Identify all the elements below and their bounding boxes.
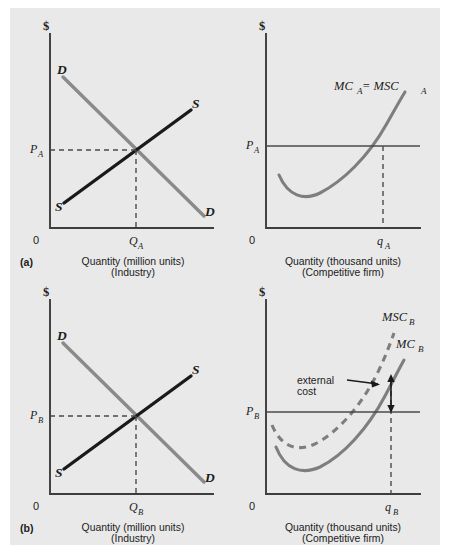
- origin-label-b-industry: 0: [33, 500, 39, 512]
- msc-sub-b: B: [409, 317, 415, 327]
- quantity-label-b-firm: q: [385, 500, 391, 514]
- mc-msc-label-a: MC A = MSC A: [333, 79, 427, 96]
- msc-sub-a: A: [420, 86, 427, 96]
- origin-label-b-firm: 0: [249, 500, 255, 512]
- price-label-a-industry: P: [29, 142, 38, 156]
- y-axis-label-a-firm: $: [259, 19, 265, 33]
- external-cost-label-line1: external: [297, 375, 334, 386]
- quantity-subscript-a-firm: A: [384, 241, 391, 251]
- panel-a-industry: $ D D S S P A 0 Q A (a) Quantity (millio…: [20, 19, 215, 278]
- origin-label-a-industry: 0: [33, 234, 39, 246]
- mc-label-b: MC B: [395, 337, 424, 354]
- panel-b-firm: $ MSC B MC B external cost: [245, 285, 424, 544]
- quantity-subscript-b-industry: B: [138, 507, 143, 517]
- mc-label-a: MC: [333, 79, 353, 93]
- panel-a-firm-axes: [266, 34, 420, 228]
- caption-b-firm-line2: (Competitive firm): [302, 533, 384, 544]
- quantity-subscript-a-industry: A: [137, 241, 144, 251]
- external-cost-leader-arrowhead: [371, 381, 380, 388]
- panel-a-firm: $ MC A = MSC A P A 0 q A Quantity (thous…: [245, 19, 427, 278]
- caption-a-industry-line1: Quantity (million units): [82, 256, 185, 267]
- price-subscript-a-industry: A: [37, 149, 44, 159]
- caption-a-industry-line2: (Industry): [111, 267, 155, 278]
- mc-equals-msc-a: = MSC: [362, 79, 399, 93]
- price-label-b-industry: P: [29, 408, 38, 422]
- demand-curve-b: [63, 343, 204, 482]
- price-subscript-a-firm: A: [253, 145, 260, 155]
- quantity-subscript-b-firm: B: [393, 507, 398, 517]
- external-cost-label-line2: cost: [297, 386, 316, 397]
- figure-root: $ D D S S P A 0 Q A (a) Quantity (millio…: [0, 0, 450, 555]
- caption-a-firm-line2: (Competitive firm): [302, 267, 384, 278]
- demand-curve-a: [63, 77, 204, 216]
- demand-label-b-top: D: [56, 328, 67, 343]
- caption-b-industry-line2: (Industry): [111, 533, 155, 544]
- price-label-a-firm: P: [245, 138, 254, 152]
- mc-label-b-text: MC: [395, 337, 415, 351]
- origin-label-a-firm: 0: [249, 234, 255, 246]
- price-label-b-firm: P: [245, 404, 254, 418]
- demand-label-b-bottom: D: [204, 470, 215, 485]
- demand-label-a-top: D: [56, 62, 67, 77]
- mc-msc-curve-a: [279, 92, 405, 197]
- y-axis-label-a-industry: $: [43, 19, 49, 33]
- demand-label-a-bottom: D: [204, 204, 215, 219]
- panel-b-industry: $ D D S S P B 0 Q B (b) Quantity (millio…: [20, 285, 215, 544]
- caption-a-firm-line1: Quantity (thousand units): [285, 256, 401, 267]
- mc-sub-b: B: [418, 344, 424, 354]
- supply-curve-a: [64, 110, 191, 203]
- quantity-label-b-industry: Q: [129, 500, 138, 514]
- msc-label-b-text: MSC: [381, 310, 408, 324]
- mc-curve-b: [276, 360, 404, 471]
- panel-label-b: (b): [20, 522, 34, 534]
- caption-b-industry-line1: Quantity (million units): [82, 522, 185, 533]
- supply-label-b-bottom: S: [55, 465, 63, 480]
- msc-label-b: MSC B: [381, 310, 415, 327]
- panel-label-a: (a): [20, 256, 33, 268]
- supply-label-a-top: S: [192, 96, 200, 111]
- msc-curve-b: [272, 333, 394, 448]
- caption-b-firm-line1: Quantity (thousand units): [285, 522, 401, 533]
- economics-figure-svg: $ D D S S P A 0 Q A (a) Quantity (millio…: [0, 0, 450, 555]
- quantity-label-a-industry: Q: [129, 234, 138, 248]
- price-subscript-b-industry: B: [38, 415, 43, 425]
- price-subscript-b-firm: B: [254, 411, 259, 421]
- y-axis-label-b-firm: $: [259, 285, 265, 299]
- supply-curve-b: [64, 376, 191, 469]
- supply-label-a-bottom: S: [55, 199, 63, 214]
- supply-label-b-top: S: [192, 362, 200, 377]
- y-axis-label-b-industry: $: [43, 285, 49, 299]
- quantity-label-a-firm: q: [377, 234, 383, 248]
